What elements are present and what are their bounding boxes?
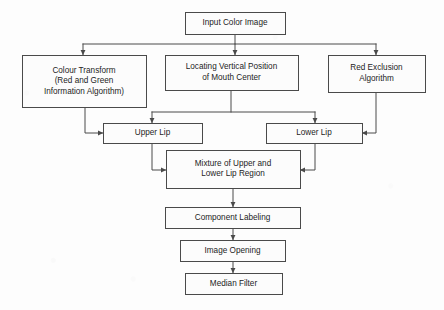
edge-lower-lip-to-mixture [300,143,315,170]
node-label-median-filter: Median Filter [210,279,258,288]
node-label-red-exclusion-algorithm: Algorithm [359,74,394,83]
node-label-colour-transform: Colour Transform [52,66,115,75]
flowchart-canvas: Input Color ImageColour Transform(Red an… [0,0,444,310]
node-label-lower-lip: Lower Lip [296,128,332,137]
node-label-component-labeling: Component Labeling [195,213,271,222]
node-label-colour-transform: (Red and Green [55,76,114,85]
node-label-image-opening: Image Opening [205,246,261,255]
node-label-mixture-upper-lower-lip: Mixture of Upper and [195,159,272,168]
node-label-locating-vertical-position: Locating Vertical Position [186,62,278,71]
node-component-labeling: Component Labeling [166,208,301,229]
node-mixture-upper-lower-lip: Mixture of Upper andLower Lip Region [167,151,301,189]
edge-red-exclusion-to-lower-lip [362,92,376,133]
node-lower-lip: Lower Lip [267,124,363,144]
node-label-colour-transform: Information Algorithm) [44,87,124,96]
node-upper-lip: Upper Lip [104,124,203,144]
node-label-input-color-image: Input Color Image [202,18,268,27]
edge-upper-lip-to-mixture [152,143,166,170]
node-label-locating-vertical-position: of Mouth Center [202,73,261,82]
flowchart-diagram: Input Color ImageColour Transform(Red an… [0,0,444,310]
node-label-red-exclusion-algorithm: Red Exclusion [350,63,403,72]
node-locating-vertical-position: Locating Vertical Positionof Mouth Cente… [166,56,299,91]
edge-colour-transform-to-upper-lip [85,107,103,133]
node-label-upper-lip: Upper Lip [135,128,171,137]
node-median-filter: Median Filter [186,274,283,295]
node-colour-transform: Colour Transform(Red and GreenInformatio… [23,56,147,108]
node-red-exclusion-algorithm: Red ExclusionAlgorithm [329,56,426,93]
node-label-mixture-upper-lower-lip: Lower Lip Region [201,169,265,178]
node-image-opening: Image Opening [181,241,286,262]
node-input-color-image: Input Color Image [186,13,286,35]
